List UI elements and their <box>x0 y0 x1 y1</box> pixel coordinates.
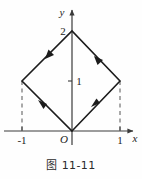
figure-container: y x O 2 1 -1 1 图 11-11 <box>0 0 142 179</box>
y-tick-label-one: 1 <box>76 75 82 87</box>
x-axis-label: x <box>132 132 138 144</box>
origin-label: O <box>60 133 68 145</box>
x-tick-label-positive-one: 1 <box>117 134 123 146</box>
x-tick-label-negative-one: -1 <box>17 134 26 146</box>
figure-caption: 图 11-11 <box>0 156 142 172</box>
coordinate-diagram: y x O 2 1 -1 1 <box>0 0 142 179</box>
y-tick-label-two: 2 <box>60 25 66 37</box>
direction-arrow-upper-right <box>94 56 103 65</box>
y-axis-label: y <box>59 6 65 18</box>
